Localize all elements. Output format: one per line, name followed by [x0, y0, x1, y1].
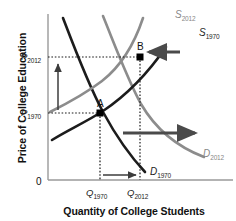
equilibrium-point-a [97, 110, 104, 117]
point-label-b: B [137, 41, 144, 52]
y-axis-title: Price of College Education [16, 18, 28, 178]
curve-s-1970 [52, 47, 166, 140]
y-tick-p2012: P2012 [21, 51, 41, 64]
equilibrium-point-b [137, 54, 144, 61]
point-label-a: A [97, 98, 104, 109]
curve-label-d-1970: D1970 [150, 166, 171, 179]
y-tick-p1970: P1970 [21, 107, 41, 120]
supply-demand-chart: Price of College Education Quantity of C… [0, 0, 236, 221]
x-tick-q2012: Q2012 [127, 187, 148, 200]
curve-label-s-2012: S2012 [175, 9, 195, 22]
x-axis-title: Quantity of College Students [36, 205, 232, 217]
curve-label-s-1970: S1970 [199, 27, 219, 40]
origin-label: 0 [36, 176, 42, 187]
x-tick-q1970: Q1970 [86, 187, 107, 200]
curve-label-d-2012: D2012 [203, 148, 224, 161]
